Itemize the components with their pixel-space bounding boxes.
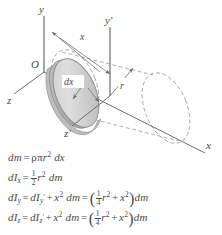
dIy-plus: +: [45, 191, 54, 203]
y-prime-axis-label: y': [104, 14, 113, 26]
dIy-dm-1: dm: [66, 191, 80, 203]
dIz-paren-open: (: [89, 210, 95, 227]
cylinder-bottom-line: [88, 118, 179, 141]
dIy-dm-2: dm: [135, 191, 149, 203]
dm-equals: =: [22, 151, 31, 163]
z-prime-axis-label: z': [63, 127, 71, 139]
z-axis-line: [14, 72, 44, 94]
differential-disk: [38, 52, 108, 142]
dm-r-exponent: 2: [47, 150, 51, 159]
dIy-r-exponent: 2: [107, 190, 111, 199]
r-radius-label: r: [120, 80, 124, 91]
dIz-fraction: 14: [95, 210, 101, 227]
figure-root: x z y O y' z': [0, 0, 222, 235]
dIz-x-exponent: 2: [59, 210, 63, 219]
dm-dx: dx: [54, 151, 65, 163]
equation-dm: dm=ρπr2dx: [8, 145, 222, 165]
dIz-plus-2: +: [110, 211, 119, 223]
x-distance-label: x: [79, 31, 85, 42]
y-axis-label: y: [38, 3, 44, 15]
equation-dIx: dIx=12r2dm: [8, 165, 222, 185]
dIy-plus-2: +: [111, 191, 120, 203]
dIx-dm: dm: [49, 171, 63, 183]
dm-term: dm: [8, 151, 22, 163]
dIz-denominator: 4: [95, 219, 101, 227]
z-axis-label: z: [6, 94, 12, 106]
dIy-equals-1: =: [21, 191, 30, 203]
dIz-dm-2: dm: [134, 211, 148, 223]
y-prime-axis: y': [104, 14, 113, 96]
cylinder-diagram: x z y O y' z': [0, 0, 222, 155]
equation-dIz: dIz=dIz'+x2dm=(14r2+x2)dm: [8, 205, 222, 225]
dIz-equals-2: =: [79, 211, 88, 223]
origin-label: O: [31, 58, 39, 70]
dIy-equals-2: =: [80, 191, 89, 203]
y-axis: y O: [31, 3, 44, 72]
z-axis: z: [6, 72, 44, 106]
dIy-x-exponent: 2: [59, 190, 63, 199]
dx-label: dx: [64, 76, 74, 87]
equation-dIy: dIy=dIy'+x2dm=(14r2+x2)dm: [8, 185, 222, 205]
dIx-equals: =: [21, 171, 30, 183]
dIx-r-exponent: 2: [42, 170, 46, 179]
dIz-dm-1: dm: [66, 211, 80, 223]
r-dimension: r: [110, 68, 133, 96]
equation-list: dm=ρπr2dx dIx=12r2dm dIy=dIy'+x2dm=(14r2…: [0, 145, 222, 225]
dIz-equals-1: =: [21, 211, 30, 223]
